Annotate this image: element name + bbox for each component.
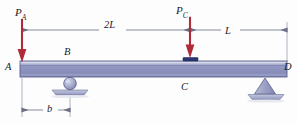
load-subscript-pc: C (183, 11, 188, 20)
beam (20, 61, 287, 77)
beam-diagram-figure: PA PC 2L L b A B C D (0, 0, 297, 123)
bearing-plate-c (183, 58, 198, 62)
beam-diagram-canvas (0, 0, 297, 123)
point-label-b: B (64, 47, 70, 58)
load-symbol-pa: P (15, 6, 22, 18)
load-arrow-pc (186, 17, 195, 58)
load-arrow-pa (18, 19, 27, 63)
dimension-label-l: L (225, 26, 231, 37)
dimension-label-b: b (47, 104, 52, 115)
load-label-pa: PA (15, 7, 26, 21)
support-roller-b (51, 77, 89, 98)
dimension-label-2l: 2L (104, 20, 115, 31)
support-pin-d (247, 78, 285, 103)
point-label-a: A (5, 62, 11, 73)
load-subscript-pa: A (22, 13, 27, 22)
point-label-d: D (284, 62, 292, 73)
load-symbol-pc: P (176, 4, 183, 16)
point-label-c: C (181, 82, 188, 93)
load-label-pc: PC (176, 5, 188, 19)
